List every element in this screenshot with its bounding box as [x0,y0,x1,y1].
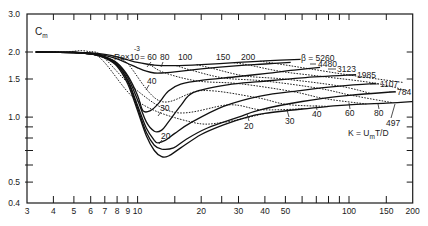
re-label-100: 100 [178,52,192,62]
re-mid-label-20: 20 [161,131,171,141]
re-mid-label-30: 30 [160,103,170,113]
beta-label-3123: 3123 [337,64,356,74]
re-prefix-label: Re×10 [114,52,140,62]
x-tick-label: 200 [406,206,420,216]
beta-label-4480: 4480 [318,59,337,69]
re-label-60: = 60 [140,52,157,62]
beta-label-784: 784 [397,87,411,97]
x-tick-label: 50 [281,206,291,216]
re-bottom-label-30: 30 [285,116,295,126]
y-tick-label: 0.4 [8,198,20,208]
beta-label-497: 497 [386,118,400,128]
x-tick-label: 9 [126,206,131,216]
y-tick-label: 3.0 [8,9,20,19]
beta-label-1985: 1985 [357,70,376,80]
x-tick-label: 8 [115,206,120,216]
re-exponent-label: -3 [134,45,140,52]
y-tick-label: 1.5 [8,74,20,84]
x-tick-label: 4 [51,206,56,216]
x-tick-label: 40 [260,206,270,216]
re-bottom-label-20: 20 [244,121,254,131]
re-bottom-label-60: 60 [345,108,355,118]
re-label-80: 80 [160,52,170,62]
chart-background [0,0,428,226]
x-axis-label: K = UmT/D [348,128,389,140]
x-tick-label: 6 [88,206,93,216]
x-tick-label: 7 [102,206,107,216]
x-tick-label: 30 [234,206,244,216]
x-tick-label: 10 [133,206,143,216]
x-tick-label: 20 [196,206,206,216]
x-tick-label: 100 [342,206,356,216]
re-mid-label-40: 40 [147,76,157,86]
cm-vs-k-chart: 345678910203040501001502003.02.01.51.00.… [0,0,428,226]
x-tick-label: 150 [379,206,393,216]
re-label-150: 150 [216,52,230,62]
beta-label-1107: 1107 [380,79,399,89]
x-tick-label: 3 [25,206,30,216]
y-tick-label: 1.0 [8,112,20,122]
y-tick-label: 0.5 [8,177,20,187]
re-bottom-label-40: 40 [312,109,322,119]
re-label-200: 200 [241,52,255,62]
re-bottom-label-80: 80 [374,108,384,118]
y-tick-label: 2.0 [8,47,20,57]
x-tick-label: 5 [72,206,77,216]
